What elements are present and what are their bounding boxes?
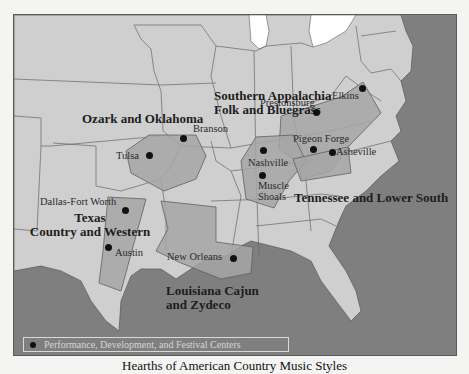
city-label-dallas-fort-worth: Dallas-Fort Worth <box>40 196 116 207</box>
city-dot-muscle-shoals <box>259 172 266 179</box>
city-label-austin: Austin <box>115 247 143 258</box>
city-dot-pigeon-forge <box>310 146 317 153</box>
city-label-prestonsburg: Prestonsburg <box>260 97 315 108</box>
region-label-line: Country and Western <box>21 225 159 239</box>
map-frame: Southern Appalachia Folk and Bluegrass O… <box>13 14 457 356</box>
city-dot-prestonsburg <box>313 109 320 116</box>
city-label-asheville: Asheville <box>336 146 376 157</box>
region-label-line: Louisiana Cajun <box>166 284 259 298</box>
map-legend: Performance, Development, and Festival C… <box>23 337 289 352</box>
region-label-louisiana: Louisiana Cajun and Zydeco <box>166 284 259 312</box>
city-dot-asheville <box>329 149 336 156</box>
city-label-tulsa: Tulsa <box>116 150 139 161</box>
region-label-ozark: Ozark and Oklahoma <box>82 112 203 126</box>
city-dot-austin <box>105 244 112 251</box>
region-label-texas: Texas Country and Western <box>21 211 159 239</box>
city-label-pigeon-forge: Pigeon Forge <box>293 133 349 144</box>
city-dot-tulsa <box>146 152 153 159</box>
city-label-elkins: Elkins <box>332 90 359 101</box>
city-label-branson: Branson <box>193 123 228 134</box>
map-caption: Hearths of American Country Music Styles <box>0 358 469 374</box>
city-dot-nashville <box>260 147 267 154</box>
city-label-muscle-shoals: Muscle Shoals <box>258 180 298 202</box>
region-label-line: and Zydeco <box>166 298 259 312</box>
legend-dot-icon <box>30 342 36 348</box>
city-dot-new-orleans <box>230 255 237 262</box>
city-dot-dallas-fort-worth <box>122 207 129 214</box>
city-label-new-orleans: New Orleans <box>167 251 222 262</box>
legend-label: Performance, Development, and Festival C… <box>44 339 241 350</box>
region-label-line: Texas <box>21 211 159 225</box>
region-label-tennessee: Tennessee and Lower South <box>294 191 448 205</box>
city-label-nashville: Nashville <box>248 157 288 168</box>
city-dot-elkins <box>359 85 366 92</box>
city-dot-branson <box>180 135 187 142</box>
